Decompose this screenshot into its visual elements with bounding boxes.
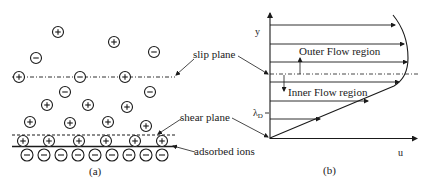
negative-ion-icon [75,72,86,83]
negative-ion-icon [145,87,156,98]
shear-plane-arrow-right [232,118,268,137]
positive-ion-icon [74,136,85,147]
diffuse-layer-ions [14,27,160,132]
shear-plane-arrow-left [158,119,181,134]
negative-ion-icon [60,87,71,98]
positive-ion-icon [42,100,53,111]
positive-ion-icon [14,72,25,83]
positive-ion-icon [44,136,55,147]
negative-ion-icon [140,149,152,161]
positive-ion-icon [103,117,114,128]
positive-ion-icon [157,136,168,147]
velocity-profile-curve [270,15,408,138]
negative-ion-icon [149,47,160,58]
panel-a-caption: (a) [89,165,102,178]
positive-ion-icon [101,136,112,147]
shear-row-ions [18,136,168,147]
shear-plane-label: shear plane [180,111,230,123]
panel-a: slip plane shear plane adsorbed ions (a) [12,27,268,179]
y-axis-label: y [255,26,260,37]
positive-ion-icon [53,27,64,38]
positive-ion-icon [65,118,76,129]
negative-ion-icon [106,149,118,161]
negative-ion-icon [156,149,168,161]
negative-ion-icon [21,149,33,161]
positive-ion-icon [18,136,29,147]
inner-flow-region-label: Inner Flow region [288,86,368,98]
panel-b-caption: (b) [323,164,336,177]
outer-flow-region-label: Outer Flow region [299,45,381,57]
positive-ion-icon [120,72,131,83]
negative-ion-icon [72,149,84,161]
negative-ion-icon [123,149,135,161]
debye-length-label: λD [253,107,263,120]
adsorbed-ions-label: adsorbed ions [194,145,255,157]
negative-ion-icon [55,149,67,161]
negative-ion-icon [38,149,50,161]
positive-ion-icon [25,117,36,128]
positive-ion-icon [109,37,120,48]
negative-ion-icon [31,53,42,64]
adsorbed-ions-row [21,149,168,161]
adsorbed-ions-arrow [173,146,195,152]
positive-ion-icon [83,100,94,111]
slip-plane-label: slip plane [193,48,236,60]
panel-b: y u Outer Flow region Inner Flow region … [253,13,420,177]
u-axis-label: u [398,147,403,158]
slip-plane-arrow-left [176,59,194,75]
positive-ion-icon [141,121,152,132]
velocity-arrows [270,25,407,119]
slip-plane-arrow-right [238,56,268,74]
positive-ion-icon [122,102,133,113]
electric-double-layer-figure: slip plane shear plane adsorbed ions (a)… [0,0,424,184]
positive-ion-icon [130,136,141,147]
negative-ion-icon [89,149,101,161]
